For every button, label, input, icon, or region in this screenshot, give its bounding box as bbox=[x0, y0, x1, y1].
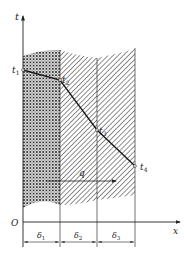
t-axis-label: t bbox=[15, 11, 20, 22]
t4-point bbox=[134, 165, 137, 168]
layer-1-crosshatch bbox=[23, 50, 60, 208]
t1-point bbox=[22, 69, 25, 72]
t2-point bbox=[59, 79, 62, 82]
t1-label: t1 bbox=[12, 65, 19, 76]
layer-3-hatch bbox=[97, 49, 135, 200]
heat-flux-label: q bbox=[79, 168, 85, 178]
origin-label: O bbox=[11, 218, 19, 228]
delta-3-label: δ3 bbox=[112, 231, 121, 241]
delta-1-label: δ1 bbox=[37, 231, 45, 241]
wall-temperature-diagram: t x O t1 t2 t3 t4 q δ1 δ2 δ3 bbox=[0, 0, 184, 257]
x-axis-label: x bbox=[173, 226, 178, 236]
t4-label: t4 bbox=[140, 162, 148, 173]
layer-2-hatch bbox=[60, 50, 97, 205]
delta-2-label: δ2 bbox=[74, 231, 82, 241]
t3-point bbox=[96, 129, 99, 132]
